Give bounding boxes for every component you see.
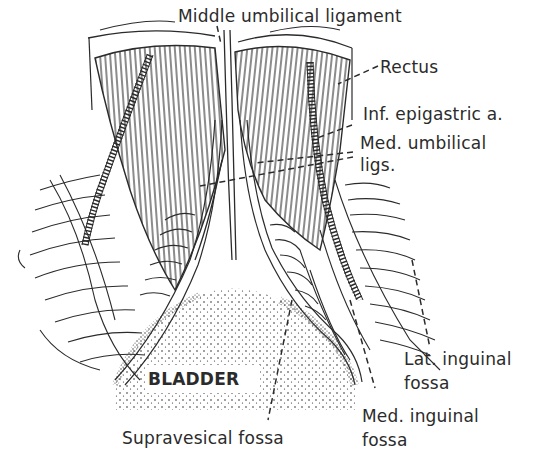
label-lateral-inguinal-fossa-line1: Lat. inguinal (404, 349, 512, 369)
label-medial-inguinal-fossa-line2: fossa (362, 430, 408, 450)
leader-middle-umbilical (217, 26, 221, 44)
anatomical-illustration: Middle umbilical ligament Rectus Inf. ep… (0, 0, 540, 464)
label-middle-umbilical-ligament: Middle umbilical ligament (178, 6, 402, 26)
label-medial-inguinal-fossa-line1: Med. inguinal (362, 406, 479, 426)
drawing-canvas (0, 0, 540, 464)
label-rectus: Rectus (380, 57, 438, 77)
label-medial-umbilical-ligs-line1: Med. umbilical (360, 133, 486, 153)
label-inferior-epigastric-artery: Inf. epigastric a. (363, 104, 503, 124)
label-medial-umbilical-ligs-line2: ligs. (360, 155, 396, 175)
right-rectus-muscle (235, 26, 352, 250)
left-lateral-fascia (18, 175, 145, 380)
label-supravesical-fossa: Supravesical fossa (122, 428, 284, 448)
label-bladder: BLADDER (148, 369, 239, 389)
bladder (115, 289, 355, 410)
label-lateral-inguinal-fossa-line2: fossa (404, 373, 450, 393)
